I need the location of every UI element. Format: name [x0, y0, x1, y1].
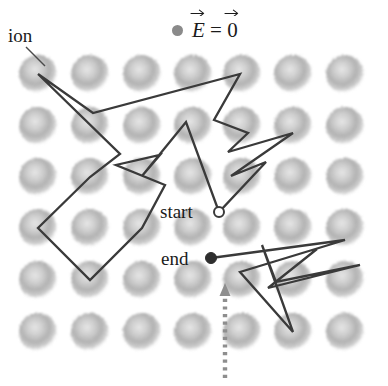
ion-0-5	[274, 55, 312, 93]
ion-2-4	[223, 158, 261, 196]
start-label: start	[160, 202, 193, 221]
ion-1-5	[274, 107, 312, 145]
legend-symbol-zero: 0	[227, 18, 238, 43]
ion-5-6	[326, 313, 364, 351]
end-marker-icon	[206, 253, 217, 264]
legend-equals: =	[210, 18, 222, 42]
ion-4-2	[123, 261, 161, 299]
ion-2-6	[326, 158, 364, 196]
ion-4-0	[19, 261, 57, 299]
ion-0-4	[223, 55, 261, 93]
ion-2-0	[19, 158, 57, 196]
end-label: end	[161, 249, 188, 268]
ion-3-1	[71, 209, 109, 247]
ion-2-5	[274, 158, 312, 196]
ion-1-6	[326, 107, 364, 145]
legend-symbol-E: E	[192, 18, 205, 43]
ion-5-3	[174, 313, 212, 351]
ion-5-0	[19, 313, 57, 351]
start-marker-icon	[214, 207, 224, 217]
ion-3-5	[274, 209, 312, 247]
ion-5-4	[223, 313, 261, 351]
ion-label: ion	[8, 26, 32, 45]
ion-0-6	[326, 55, 364, 93]
field-legend: E = 0	[172, 18, 238, 43]
vector-arrow-over-zero-icon	[225, 8, 240, 16]
ion-2-2	[123, 158, 161, 196]
figure-canvas	[0, 0, 388, 386]
ion-lattice-random-walk-figure: ion start end E = 0	[0, 0, 388, 386]
ion-0-2	[123, 55, 161, 93]
ion-3-4	[223, 209, 261, 247]
ion-4-6	[326, 261, 364, 299]
ion-1-0	[19, 107, 57, 145]
vector-arrow-over-E-icon	[191, 8, 206, 16]
legend-text: E = 0	[192, 18, 238, 43]
ion-5-2	[123, 313, 161, 351]
legend-dot-icon	[172, 25, 183, 36]
ion-1-2	[123, 107, 161, 145]
ion-5-1	[71, 313, 109, 351]
ion-0-1	[71, 55, 109, 93]
